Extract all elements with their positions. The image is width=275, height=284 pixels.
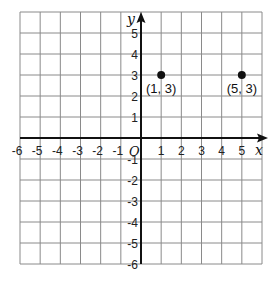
- x-tick-label: -3: [72, 144, 83, 158]
- y-axis-label: y: [126, 11, 136, 27]
- x-tick-label: 5: [238, 144, 245, 158]
- data-point: [238, 71, 246, 79]
- y-tick-label: 4: [131, 48, 138, 62]
- axes: x y O: [20, 11, 268, 264]
- x-tick-label: -6: [12, 144, 23, 158]
- y-tick-label: 1: [131, 111, 138, 125]
- x-tick-label: -1: [112, 144, 123, 158]
- y-tick-label: 2: [131, 90, 138, 104]
- point-label: (5, 3): [227, 81, 257, 96]
- y-tick-label: -6: [127, 258, 138, 272]
- x-tick-label: 4: [218, 144, 225, 158]
- coordinate-plane: x y O -6-5-4-3-2-11234554321-1-2-3-4-5-6…: [0, 0, 275, 284]
- x-tick-label: 3: [198, 144, 205, 158]
- y-tick-label: -4: [127, 216, 138, 230]
- x-tick-label: 2: [178, 144, 185, 158]
- x-tick-label: -5: [32, 144, 43, 158]
- x-tick-label: -4: [52, 144, 63, 158]
- x-tick-label: 1: [158, 144, 165, 158]
- x-axis-label: x: [255, 142, 263, 158]
- point-label: (1, 3): [146, 81, 176, 96]
- y-tick-label: -5: [127, 237, 138, 251]
- x-tick-label: -2: [92, 144, 103, 158]
- data-point: [157, 71, 165, 79]
- y-tick-label: 5: [131, 27, 138, 41]
- y-tick-label: -2: [127, 174, 138, 188]
- y-tick-label: -3: [127, 195, 138, 209]
- y-tick-label: -1: [127, 153, 138, 167]
- y-tick-label: 3: [131, 69, 138, 83]
